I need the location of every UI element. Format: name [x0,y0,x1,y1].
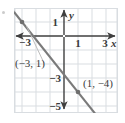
point-label-neg3-1: (−3, 1) [15,57,45,70]
x-axis-label: x [110,37,117,49]
x-tick-label-1: 1 [75,37,81,49]
y-tick-label-1: 1 [53,16,59,28]
y-tick-label-neg5: −5 [49,100,61,112]
point-label-1-neg4: (1, −4) [83,77,113,90]
plotted-point-1 [20,20,25,25]
x-tick-label-neg3: −3 [19,36,31,48]
graph-svg: −3 1 3 1 −3 −5 y x (−3, 1) (1, −4) [14,8,118,113]
x-tick-label-3: 3 [102,37,108,49]
graph-screenshot: −3 1 3 1 −3 −5 y x (−3, 1) (1, −4) [0,0,125,123]
y-axis-label: y [67,9,74,21]
y-tick-label-neg3: −3 [49,72,61,84]
coordinate-plane: −3 1 3 1 −3 −5 y x (−3, 1) (1, −4) [14,8,118,113]
plotted-point-2 [76,90,81,95]
edge-artifact-speck [2,11,5,14]
